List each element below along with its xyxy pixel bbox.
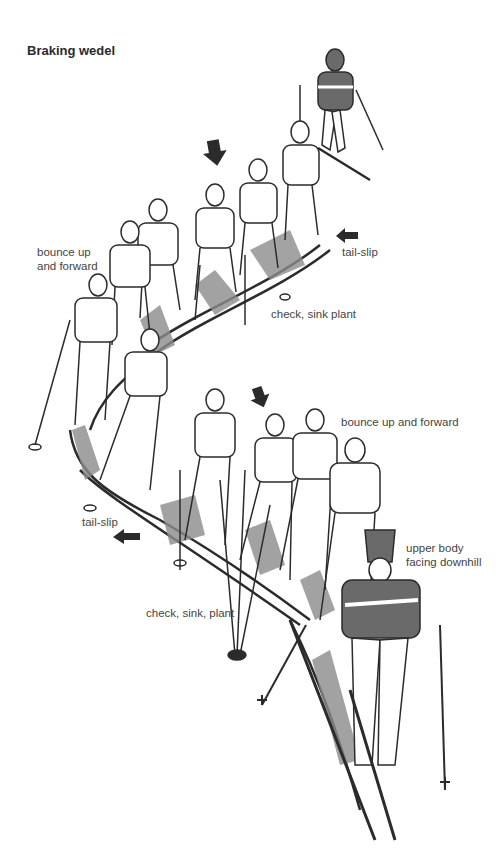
- skier-upper-1: [283, 121, 319, 240]
- arrow-down-icon: [201, 138, 229, 168]
- label-upper-body: upper body facing downhill: [406, 541, 481, 569]
- arrow-left-icon: [336, 228, 358, 243]
- label-tail-slip-bottom: tail-slip: [82, 515, 118, 529]
- label-bounce-up-bottom: bounce up and forward: [341, 415, 459, 429]
- skier-figures: [35, 49, 445, 840]
- skier-left-2: [100, 329, 167, 490]
- arrow-left-icon: [113, 529, 140, 544]
- arrow-down-icon: [247, 384, 273, 411]
- label-tail-slip-top: tail-slip: [342, 245, 378, 259]
- ski-track-lower: [70, 430, 360, 810]
- skier-left-1: [35, 274, 117, 445]
- label-line: upper body: [406, 541, 481, 555]
- label-check-sink-plant-bottom: check, sink, plant: [146, 606, 234, 620]
- label-line: and forward: [37, 259, 98, 273]
- label-bounce-up-top: bounce up and forward: [37, 245, 98, 273]
- label-check-sink-plant-top: check, sink plant: [271, 307, 356, 321]
- label-line: bounce up: [37, 245, 98, 259]
- label-line: facing downhill: [406, 555, 481, 569]
